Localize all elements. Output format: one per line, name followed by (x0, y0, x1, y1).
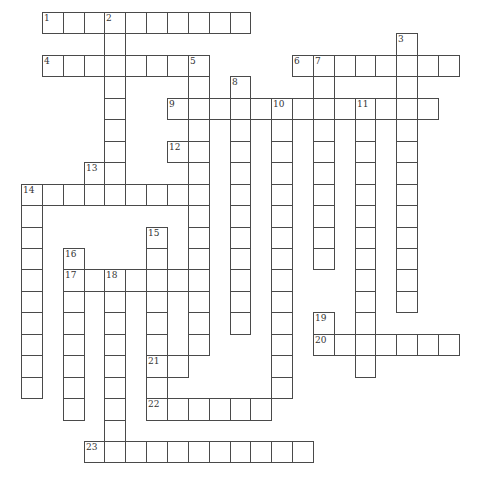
crossword-cell[interactable] (146, 312, 168, 335)
crossword-cell[interactable] (230, 269, 251, 292)
crossword-cell[interactable] (375, 334, 397, 356)
crossword-cell[interactable] (417, 98, 439, 120)
crossword-cell[interactable] (104, 76, 126, 99)
crossword-cell[interactable] (396, 227, 418, 249)
crossword-cell[interactable] (21, 334, 43, 356)
crossword-cell[interactable]: 3 (396, 33, 418, 56)
crossword-cell[interactable]: 15 (146, 227, 168, 249)
crossword-cell[interactable] (146, 55, 168, 77)
crossword-cell[interactable] (375, 98, 397, 120)
crossword-cell[interactable] (146, 441, 168, 463)
crossword-cell[interactable] (230, 205, 251, 228)
crossword-cell[interactable] (167, 269, 189, 292)
crossword-cell[interactable]: 17 (63, 269, 85, 292)
crossword-cell[interactable] (355, 312, 376, 335)
crossword-cell[interactable] (125, 55, 147, 77)
crossword-cell[interactable] (21, 248, 43, 270)
crossword-cell[interactable] (104, 55, 126, 77)
crossword-cell[interactable] (104, 398, 126, 421)
crossword-cell[interactable] (104, 33, 126, 56)
crossword-cell[interactable] (146, 334, 168, 356)
crossword-cell[interactable] (104, 162, 126, 185)
crossword-cell[interactable] (355, 227, 376, 249)
crossword-cell[interactable]: 6 (292, 55, 314, 77)
crossword-cell[interactable] (104, 441, 126, 463)
crossword-cell[interactable]: 11 (355, 98, 376, 120)
crossword-cell[interactable] (84, 55, 105, 77)
crossword-cell[interactable] (396, 205, 418, 228)
crossword-cell[interactable] (21, 205, 43, 228)
crossword-cell[interactable] (230, 141, 251, 163)
crossword-cell[interactable] (355, 205, 376, 228)
crossword-cell[interactable] (84, 269, 105, 292)
crossword-cell[interactable] (125, 184, 147, 206)
crossword-cell[interactable] (271, 441, 293, 463)
crossword-cell[interactable] (355, 119, 376, 142)
crossword-cell[interactable] (63, 12, 85, 34)
crossword-cell[interactable] (271, 248, 293, 270)
crossword-cell[interactable] (271, 312, 293, 335)
crossword-cell[interactable] (355, 184, 376, 206)
crossword-cell[interactable] (63, 312, 85, 335)
crossword-cell[interactable] (63, 377, 85, 399)
crossword-cell[interactable] (230, 119, 251, 142)
crossword-cell[interactable] (188, 227, 210, 249)
crossword-cell[interactable] (271, 184, 293, 206)
crossword-cell[interactable] (271, 291, 293, 313)
crossword-cell[interactable] (146, 377, 168, 399)
crossword-cell[interactable] (104, 312, 126, 335)
crossword-cell[interactable] (271, 205, 293, 228)
crossword-cell[interactable] (417, 334, 439, 356)
crossword-cell[interactable] (188, 441, 210, 463)
crossword-cell[interactable] (355, 162, 376, 185)
crossword-cell[interactable] (63, 398, 85, 421)
crossword-cell[interactable] (417, 55, 439, 77)
crossword-cell[interactable] (230, 162, 251, 185)
crossword-cell[interactable] (63, 55, 85, 77)
crossword-cell[interactable] (104, 98, 126, 120)
crossword-cell[interactable] (396, 162, 418, 185)
crossword-cell[interactable] (355, 269, 376, 292)
crossword-cell[interactable] (188, 162, 210, 185)
crossword-cell[interactable] (230, 12, 251, 34)
crossword-cell[interactable] (84, 12, 105, 34)
crossword-cell[interactable] (230, 98, 251, 120)
crossword-cell[interactable] (188, 119, 210, 142)
crossword-cell[interactable] (21, 227, 43, 249)
crossword-cell[interactable] (188, 205, 210, 228)
crossword-cell[interactable] (188, 248, 210, 270)
crossword-cell[interactable] (84, 184, 105, 206)
crossword-cell[interactable] (396, 141, 418, 163)
crossword-cell[interactable] (146, 184, 168, 206)
crossword-cell[interactable] (63, 334, 85, 356)
crossword-cell[interactable] (21, 291, 43, 313)
crossword-cell[interactable] (271, 227, 293, 249)
crossword-cell[interactable] (125, 441, 147, 463)
crossword-cell[interactable] (63, 355, 85, 378)
crossword-cell[interactable] (167, 355, 189, 378)
crossword-cell[interactable] (271, 334, 293, 356)
crossword-cell[interactable]: 16 (63, 248, 85, 270)
crossword-cell[interactable] (313, 248, 335, 270)
crossword-cell[interactable] (355, 334, 376, 356)
crossword-cell[interactable] (209, 98, 231, 120)
crossword-cell[interactable] (313, 141, 335, 163)
crossword-cell[interactable] (21, 377, 43, 399)
crossword-cell[interactable] (188, 141, 210, 163)
crossword-cell[interactable] (271, 162, 293, 185)
crossword-cell[interactable] (104, 291, 126, 313)
crossword-cell[interactable] (167, 441, 189, 463)
crossword-cell[interactable] (271, 119, 293, 142)
crossword-cell[interactable] (188, 334, 210, 356)
crossword-cell[interactable]: 10 (271, 98, 293, 120)
crossword-cell[interactable]: 22 (146, 398, 168, 421)
crossword-cell[interactable] (230, 398, 251, 421)
crossword-cell[interactable] (313, 184, 335, 206)
crossword-cell[interactable] (438, 334, 460, 356)
crossword-cell[interactable] (355, 355, 376, 378)
crossword-cell[interactable] (250, 398, 272, 421)
crossword-cell[interactable] (396, 98, 418, 120)
crossword-cell[interactable] (42, 184, 64, 206)
crossword-cell[interactable] (230, 227, 251, 249)
crossword-cell[interactable] (104, 119, 126, 142)
